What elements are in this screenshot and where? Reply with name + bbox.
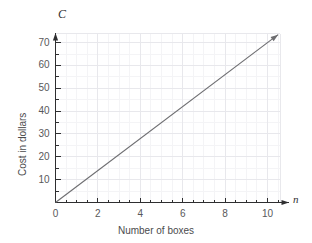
x-tick-label: 2 [83, 209, 113, 219]
x-tick-label: 10 [253, 209, 283, 219]
x-axis-title: Number of boxes [0, 226, 312, 236]
y-tick-label: 70 [22, 38, 50, 48]
cost-vs-boxes-chart: 10203040506070 0246810 Number of boxes C… [0, 0, 312, 243]
x-tick-label: 6 [168, 209, 198, 219]
y-tick-label: 50 [22, 83, 50, 93]
y-tick-label: 60 [22, 60, 50, 70]
y-tick-label: 10 [22, 175, 50, 185]
x-tick-label: 8 [210, 209, 240, 219]
x-tick-label: 4 [125, 209, 155, 219]
y-axis-variable-label: C [58, 8, 66, 20]
y-axis-title: Cost in dollars [18, 113, 28, 176]
x-tick-label: 0 [41, 209, 71, 219]
x-axis-variable-label: n [293, 194, 299, 205]
data-line-series [56, 35, 279, 203]
